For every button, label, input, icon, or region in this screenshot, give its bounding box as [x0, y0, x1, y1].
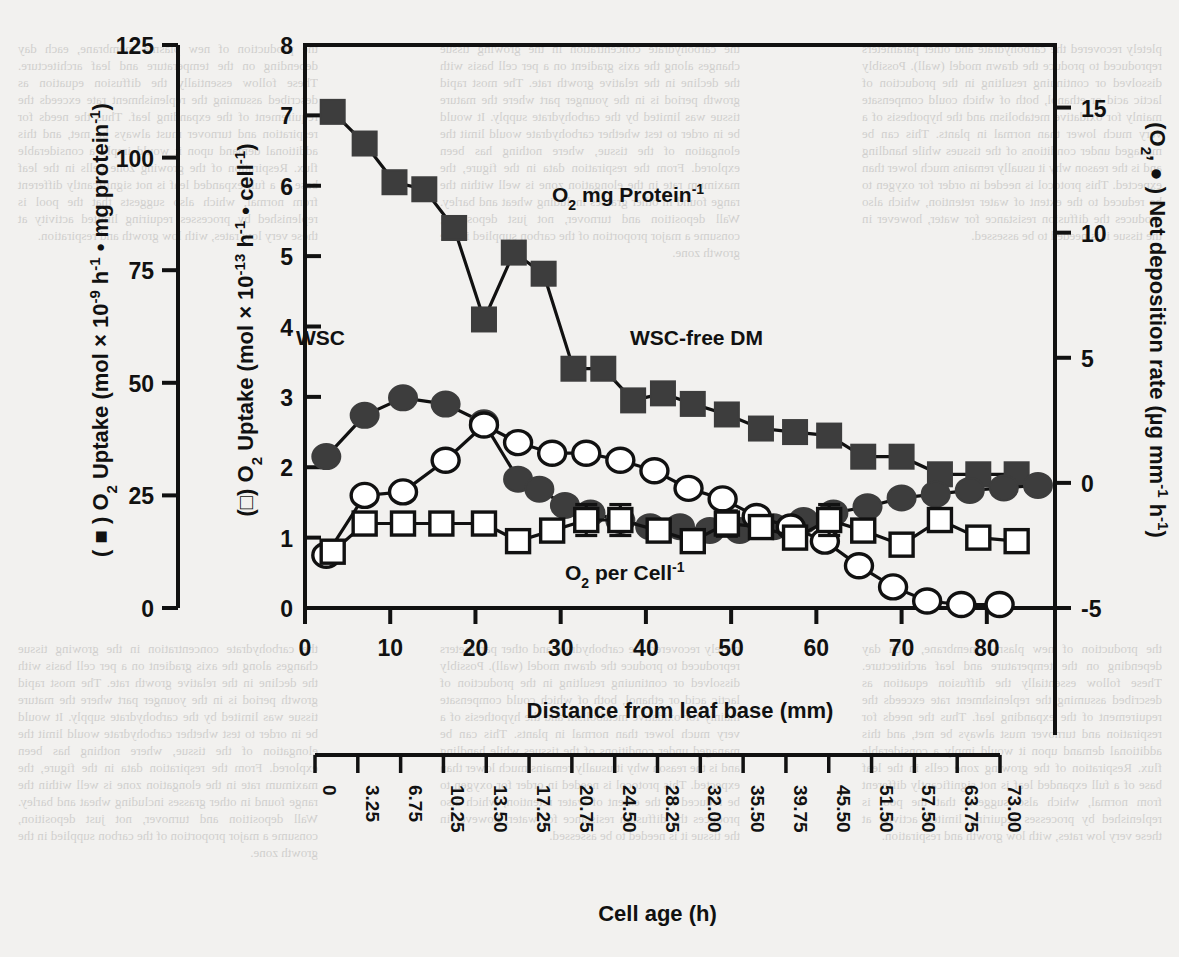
data-point-filled-circle: [922, 482, 950, 507]
data-point-open-square: [818, 509, 841, 532]
axis-inner-left-title-text: (□) O2 Uptake (mol × 10-13 h-1 • cell-1): [231, 144, 265, 517]
data-point-filled-square: [502, 241, 526, 265]
data-point-open-circle: [432, 448, 459, 472]
data-point-open-circle: [505, 431, 532, 455]
axis-inner-left-ticklabel: 7: [280, 103, 293, 129]
axis-inner-left-ticklabel: 6: [280, 174, 293, 200]
data-point-open-square: [967, 526, 990, 549]
axis-cell-age-ticklabel: 0: [319, 785, 340, 796]
axis-x-ticklabel: 60: [804, 635, 830, 661]
data-point-open-circle: [986, 592, 1013, 616]
annotation-wsc-free-dm-text: WSC-free DM: [630, 326, 763, 349]
axis-outer-left-title-text: ( ■ ) O2 Uptake (mol × 10-9 h-1 • mg pro…: [86, 103, 120, 557]
data-point-open-circle: [573, 441, 600, 465]
axis-cell-age-ticklabel: 17.25: [533, 785, 554, 833]
data-point-filled-square: [715, 402, 739, 426]
data-point-open-square: [541, 519, 564, 542]
axis-outer-left: 0255075100125: [116, 33, 178, 622]
axis-inner-left-ticklabel: 0: [280, 596, 293, 622]
axis-x-ticklabel: 30: [548, 635, 574, 661]
data-point-filled-square: [817, 424, 841, 448]
data-point-filled-circle: [312, 444, 340, 469]
axis-cell-age-ticklabel: 3.25: [362, 785, 383, 822]
series-open-square: [321, 505, 1028, 564]
data-point-open-square: [609, 509, 632, 532]
data-point-filled-square: [412, 177, 436, 201]
data-point-filled-square: [442, 216, 466, 240]
data-point-filled-square: [591, 357, 615, 381]
data-point-open-square: [852, 519, 875, 542]
axis-cell-age-ticklabel: 13.50: [490, 785, 511, 833]
annotation-wsc-free-dm: WSC-free DM: [630, 326, 763, 349]
axis-x-ticklabel: 0: [299, 635, 312, 661]
data-point-open-square: [430, 512, 453, 535]
axis-cell-age-ticklabel: 45.50: [833, 785, 854, 833]
data-point-open-circle: [351, 483, 378, 507]
axis-right-ticklabel: 10: [1081, 221, 1107, 247]
axis-x-ticklabel: 50: [718, 635, 744, 661]
data-point-open-square: [472, 512, 495, 535]
axis-outer-left-ticklabel: 0: [141, 596, 154, 622]
axis-x-ticklabel: 10: [377, 635, 403, 661]
annotation-wsc: WSC: [296, 326, 345, 349]
axis-x-cell-age: 03.256.7510.2513.5017.2520.7524.5028.253…: [315, 755, 1025, 926]
axis-inner-left-ticklabel: 3: [280, 385, 293, 411]
axis-inner-left-ticklabel: 8: [280, 33, 293, 59]
data-point-open-square: [321, 540, 344, 563]
annotation-wsc-text: WSC: [296, 326, 345, 349]
data-point-open-square: [353, 512, 376, 535]
data-point-filled-square: [321, 100, 345, 124]
series-filled-square: [321, 100, 1029, 486]
annotation-o2-mg-protein: O2 mg Protein-1: [552, 181, 704, 213]
data-point-filled-circle: [888, 485, 916, 510]
data-point-filled-square: [621, 388, 645, 412]
data-point-open-square: [715, 512, 738, 535]
axis-cell-age-ticklabel: 39.75: [790, 785, 811, 833]
data-point-open-circle: [880, 575, 907, 599]
axis-cell-age-ticklabel: 57.50: [918, 785, 939, 833]
axis-right-ticklabel: 5: [1081, 346, 1094, 372]
data-point-filled-square: [783, 420, 807, 444]
axis-right: -5051015: [1055, 45, 1107, 735]
axis-cell-age-ticklabel: 28.25: [662, 785, 683, 833]
data-point-filled-circle: [956, 478, 984, 503]
axis-right-ticklabel: 0: [1081, 471, 1094, 497]
axis-cell-age-ticklabel: 35.50: [747, 785, 768, 833]
data-point-open-square: [681, 530, 704, 553]
data-point-filled-circle: [854, 494, 882, 519]
axis-outer-left-ticklabel: 75: [128, 258, 154, 284]
axis-cell-age-ticklabel: 10.25: [447, 785, 468, 833]
data-point-open-square: [928, 509, 951, 532]
data-point-open-circle: [675, 476, 702, 500]
data-point-open-circle: [607, 448, 634, 472]
data-point-open-circle: [641, 459, 668, 483]
axis-right-title: (O2, ● ) Net deposition rate (µg mm-1 h-…: [1139, 122, 1173, 538]
axis-x-distance: 01020304050607080Distance from leaf base…: [299, 608, 1000, 723]
data-point-open-square: [575, 509, 598, 532]
axis-right-ticklabel: 15: [1081, 96, 1107, 122]
data-point-open-circle: [390, 480, 417, 504]
data-point-open-circle: [845, 554, 872, 578]
axis-x-ticklabel: 70: [889, 635, 915, 661]
data-point-open-square: [749, 516, 772, 539]
axis-right-title-text: (O2, ● ) Net deposition rate (µg mm-1 h-…: [1139, 122, 1173, 538]
axis-inner-left-title: (□) O2 Uptake (mol × 10-13 h-1 • cell-1): [231, 144, 265, 517]
data-point-open-square: [890, 533, 913, 556]
data-point-filled-circle: [525, 477, 553, 502]
axis-cell-age-ticklabel: 73.00: [1004, 785, 1025, 833]
xaxis-title: Distance from leaf base (mm): [527, 698, 834, 723]
axis-x-ticklabel: 20: [463, 635, 489, 661]
axis-inner-left-ticklabel: 4: [280, 315, 293, 341]
data-point-filled-square: [532, 262, 556, 286]
axis-outer-left-ticklabel: 100: [116, 146, 154, 172]
data-point-filled-square: [651, 381, 675, 405]
annotation-o2-per-cell-text: O2 per Cell-1: [565, 559, 685, 591]
annotation-o2-per-cell: O2 per Cell-1: [565, 559, 685, 591]
axis-outer-left-title: ( ■ ) O2 Uptake (mol × 10-9 h-1 • mg pro…: [86, 103, 120, 557]
axis-outer-left-ticklabel: 25: [128, 483, 154, 509]
axis-cell-age-ticklabel: 24.50: [619, 785, 640, 833]
axis-cell-age-ticklabel: 6.75: [405, 785, 426, 822]
data-point-filled-square: [851, 445, 875, 469]
data-point-open-circle: [709, 487, 736, 511]
data-point-filled-circle: [351, 403, 379, 428]
